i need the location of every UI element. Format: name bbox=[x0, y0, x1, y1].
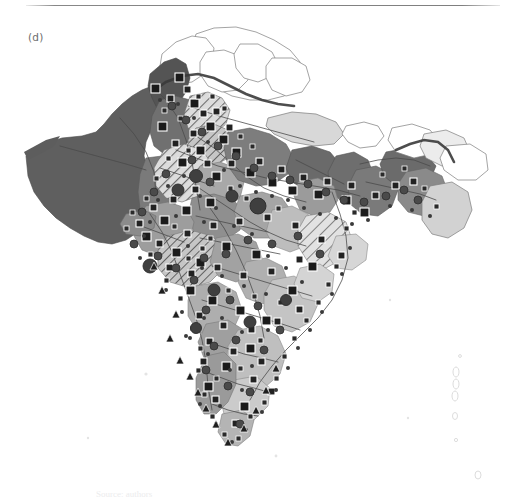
symbol-circle bbox=[191, 323, 202, 334]
symbol-square bbox=[202, 392, 207, 397]
symbol-square bbox=[196, 94, 201, 99]
symbol-circle bbox=[150, 188, 158, 196]
symbol-dot bbox=[206, 140, 210, 144]
island-outline bbox=[453, 413, 458, 420]
symbol-square bbox=[326, 282, 331, 287]
symbol-triangle bbox=[212, 420, 220, 428]
symbol-square bbox=[156, 240, 163, 247]
symbol-square bbox=[166, 156, 171, 161]
symbol-square bbox=[236, 306, 245, 315]
speckle bbox=[407, 417, 409, 419]
symbol-square bbox=[210, 94, 215, 99]
symbol-circle bbox=[224, 382, 232, 390]
symbol-circle bbox=[172, 184, 184, 196]
symbol-square bbox=[300, 174, 307, 181]
symbol-square bbox=[338, 252, 345, 259]
symbol-square bbox=[206, 122, 215, 131]
island-outline bbox=[459, 355, 462, 358]
symbol-square bbox=[170, 196, 177, 203]
symbol-square bbox=[178, 158, 187, 167]
symbol-square bbox=[196, 368, 201, 373]
symbol-circle bbox=[162, 170, 170, 178]
island-outline bbox=[452, 391, 458, 401]
symbol-square bbox=[296, 256, 303, 263]
symbol-square bbox=[236, 218, 243, 225]
symbol-square bbox=[200, 110, 207, 117]
speckle bbox=[87, 437, 89, 439]
symbol-dot bbox=[264, 292, 268, 296]
symbol-square bbox=[360, 208, 369, 217]
symbol-dot bbox=[266, 328, 270, 332]
symbol-square bbox=[274, 376, 279, 381]
symbol-dot bbox=[286, 366, 290, 370]
symbol-dot bbox=[284, 266, 288, 270]
symbol-circle bbox=[286, 176, 294, 184]
symbol-circle bbox=[198, 128, 206, 136]
symbol-circle bbox=[268, 240, 276, 248]
symbol-square bbox=[150, 204, 157, 211]
symbol-square bbox=[236, 436, 241, 441]
south-asia-map bbox=[0, 0, 519, 500]
region-tibet-east bbox=[266, 58, 310, 96]
symbol-circle bbox=[294, 232, 302, 240]
symbol-circle bbox=[168, 102, 176, 110]
symbol-square bbox=[402, 166, 407, 171]
symbol-dot bbox=[198, 402, 202, 406]
symbol-circle bbox=[276, 326, 284, 334]
symbol-square bbox=[334, 264, 339, 269]
symbol-square bbox=[228, 160, 235, 167]
symbol-square bbox=[154, 176, 159, 181]
symbol-circle bbox=[214, 142, 222, 150]
symbol-square bbox=[151, 84, 160, 93]
symbol-square bbox=[206, 198, 215, 207]
symbol-square bbox=[182, 206, 191, 215]
symbol-triangle bbox=[186, 372, 194, 380]
symbol-square bbox=[246, 344, 255, 353]
symbol-dot bbox=[192, 116, 196, 120]
symbol-square bbox=[186, 148, 191, 153]
symbol-square bbox=[184, 230, 191, 237]
symbol-square bbox=[200, 246, 205, 251]
map-layers bbox=[24, 27, 488, 479]
symbol-dot bbox=[166, 184, 170, 188]
symbol-square bbox=[167, 95, 174, 102]
symbol-circle bbox=[246, 388, 254, 396]
symbol-square bbox=[196, 312, 203, 319]
symbol-square bbox=[226, 124, 233, 131]
symbol-circle bbox=[206, 178, 214, 186]
symbol-square bbox=[308, 262, 317, 271]
symbol-square bbox=[210, 414, 215, 419]
symbol-square bbox=[268, 268, 275, 275]
symbol-circle bbox=[304, 180, 312, 188]
symbol-dot bbox=[222, 168, 226, 172]
symbol-circle bbox=[316, 250, 324, 258]
symbol-square bbox=[258, 358, 265, 365]
symbol-dot bbox=[220, 274, 224, 278]
symbol-dot bbox=[148, 220, 152, 224]
symbol-square bbox=[422, 186, 427, 191]
figure-caption: Source: authors bbox=[96, 489, 286, 499]
symbol-square bbox=[214, 264, 221, 271]
symbol-dot bbox=[300, 280, 304, 284]
symbol-circle bbox=[154, 252, 162, 260]
symbol-dot bbox=[174, 214, 178, 218]
symbol-square bbox=[282, 354, 287, 359]
symbol-square bbox=[392, 182, 399, 189]
symbol-square bbox=[304, 318, 309, 323]
symbol-square bbox=[292, 336, 297, 341]
symbol-square bbox=[164, 278, 169, 283]
symbol-square bbox=[204, 160, 211, 167]
symbol-circle bbox=[226, 296, 234, 304]
symbol-square bbox=[372, 192, 379, 199]
symbol-square bbox=[148, 252, 153, 257]
symbol-dot bbox=[388, 204, 392, 208]
symbol-dot bbox=[242, 284, 246, 288]
region-bhutan bbox=[342, 122, 384, 148]
symbol-dot bbox=[184, 334, 188, 338]
symbol-dot bbox=[334, 216, 338, 220]
symbol-dot bbox=[350, 222, 354, 226]
symbol-square bbox=[222, 106, 227, 111]
symbol-square bbox=[208, 236, 213, 241]
symbol-square bbox=[124, 226, 129, 231]
symbol-dot bbox=[138, 256, 142, 260]
